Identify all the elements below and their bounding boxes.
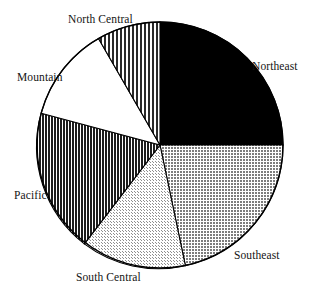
pie-label-mountain: Mountain (17, 71, 63, 84)
pie-label-south-central: South Central (76, 271, 141, 284)
pie-label-southeast: Southeast (234, 249, 280, 262)
pie-label-north-central: North Central (68, 13, 133, 26)
pie-label-northeast: Northeast (252, 60, 298, 73)
pie-label-pacific: Pacific (14, 189, 47, 202)
pie-slice-northeast[interactable] (160, 22, 283, 145)
pie-chart: Northeast Southeast South Central Pacifi… (0, 0, 311, 294)
